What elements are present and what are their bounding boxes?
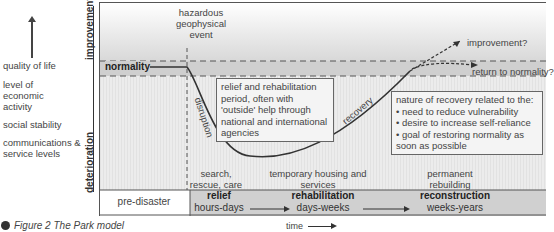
indicator-social-stability: social stability: [3, 119, 62, 130]
nature-of-recovery-box: nature of recovery related to the: • nee…: [391, 91, 543, 155]
phase-reconstruction: reconstructionweeks-years: [410, 190, 500, 214]
return-to-normality-question: return to normality?: [472, 66, 554, 77]
activity-permanent: permanent rebuilding: [422, 168, 478, 190]
time-arrow-icon: [308, 226, 332, 227]
indicator-quality-of-life: quality of life: [3, 60, 56, 71]
relief-info-box: relief and rehabilitation period, often …: [216, 78, 334, 142]
activity-temporary: temporary housing and services: [268, 168, 368, 190]
event-label: hazardous geophysical event: [165, 7, 237, 40]
time-arrow-head-icon: [331, 223, 337, 229]
phase-relief: reliefhours-days: [188, 190, 250, 214]
improvement-question: improvement?: [467, 37, 527, 48]
nature-item: • goal of restoring normality as soon as…: [396, 129, 538, 152]
up-arrow-head-icon: [28, 16, 36, 22]
nature-title: nature of recovery related to the:: [396, 94, 538, 106]
y-axis-line: [93, 6, 94, 192]
phase-pre-disaster: pre-disaster: [100, 196, 188, 208]
figure-number-icon: [1, 221, 10, 230]
time-label: time: [286, 221, 303, 231]
phase-rehabilitation: rehabilitationdays-weeks: [283, 190, 363, 214]
up-arrow-icon: [31, 20, 33, 58]
nature-item: • desire to increase self-reliance: [396, 117, 538, 129]
normality-label: normality: [105, 61, 150, 72]
indicator-economic-activity: level of economic activity: [3, 79, 63, 112]
figure-caption: Figure 2 The Park model: [14, 220, 124, 231]
activity-search: search, rescue, care: [186, 168, 246, 190]
nature-item: • need to reduce vulnerability: [396, 106, 538, 118]
indicator-communications: communications & service levels: [3, 137, 83, 159]
